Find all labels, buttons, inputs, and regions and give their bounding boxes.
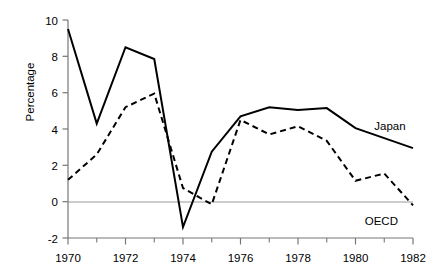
- y-tick-label-10: 10: [45, 15, 58, 27]
- y-tick-label-neg2: -2: [48, 233, 58, 245]
- series-label-oecd: OECD: [365, 215, 398, 227]
- x-tick-label-1976: 1976: [228, 252, 254, 264]
- y-axis-title: Percentage: [24, 63, 36, 122]
- x-tick-label-1970: 1970: [55, 252, 81, 264]
- x-tick-label-1978: 1978: [285, 252, 311, 264]
- x-tick-label-1974: 1974: [170, 252, 196, 264]
- y-tick-label-0: 0: [52, 196, 58, 208]
- y-tick-label-4: 4: [52, 124, 59, 136]
- y-tick-label-6: 6: [52, 87, 58, 99]
- series-label-japan: Japan: [374, 120, 405, 132]
- y-tick-label-2: 2: [52, 160, 58, 172]
- y-tick-label-8: 8: [52, 51, 58, 63]
- x-tick-label-1972: 1972: [113, 252, 139, 264]
- chart-container: Percentage 10 8 6 4 2 0 -2: [0, 0, 443, 279]
- line-chart: Percentage 10 8 6 4 2 0 -2: [0, 0, 443, 279]
- x-tick-label-1980: 1980: [343, 252, 369, 264]
- x-tick-label-1982: 1982: [400, 252, 426, 264]
